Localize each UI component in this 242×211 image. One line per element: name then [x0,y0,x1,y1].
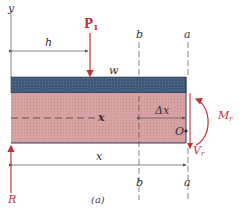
beam-free-body-diagram: y h P1 w b a x Δx O Vr Mr R x b a (a) [0,0,242,211]
y-axis-label: y [7,2,15,15]
moment-arc [196,99,208,145]
section-a-bottom-label: a [184,176,191,189]
section-a-top-label: a [184,28,191,41]
h-label: h [45,36,52,49]
point-o [184,129,187,132]
shear-label: Vr [193,144,205,158]
section-b-top-label: b [136,28,143,41]
point-o-label: O [175,125,184,138]
x-dimension-label: x [96,150,103,163]
centerline-x-label: x [97,111,105,124]
reaction-label: R [7,193,16,206]
w-label: w [109,64,119,77]
moment-label: Mr [217,109,233,123]
section-b-bottom-label: b [136,176,143,189]
beam-top-layer [11,77,186,93]
delta-x-label: Δx [154,104,170,117]
figure-caption: (a) [91,194,105,205]
p1-label: P1 [84,17,99,32]
